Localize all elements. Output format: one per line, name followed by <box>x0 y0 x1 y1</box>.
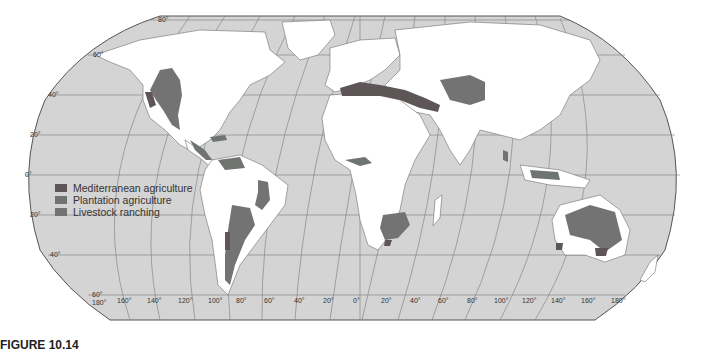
svg-text:60°: 60° <box>93 51 104 58</box>
svg-text:0°: 0° <box>25 171 32 178</box>
svg-text:20°: 20° <box>30 211 41 218</box>
svg-text:40°: 40° <box>48 91 59 98</box>
svg-text:20°: 20° <box>30 131 41 138</box>
svg-text:80°: 80° <box>467 297 478 304</box>
svg-text:120°: 120° <box>522 297 537 304</box>
legend-item-plantation: Plantation agriculture <box>55 194 193 206</box>
legend-swatch <box>55 208 67 216</box>
svg-text:160°: 160° <box>117 297 132 304</box>
svg-text:160°: 160° <box>581 297 596 304</box>
svg-text:140°: 140° <box>147 297 162 304</box>
svg-text:20°: 20° <box>381 297 392 304</box>
svg-text:20°: 20° <box>323 297 334 304</box>
figure-caption: FIGURE 10.14 <box>0 338 79 353</box>
svg-text:180°: 180° <box>611 297 626 304</box>
figure-number: FIGURE 10.14 <box>0 338 79 352</box>
legend-label: Mediterranean agriculture <box>73 182 193 194</box>
svg-text:180°: 180° <box>92 299 107 306</box>
legend-label: Livestock ranching <box>73 206 160 218</box>
svg-text:60°: 60° <box>92 291 103 298</box>
map-legend: Mediterranean agriculture Plantation agr… <box>55 182 193 218</box>
svg-text:60°: 60° <box>264 297 275 304</box>
svg-text:0°: 0° <box>353 297 360 304</box>
svg-text:40°: 40° <box>50 251 61 258</box>
legend-swatch <box>55 196 67 204</box>
svg-text:40°: 40° <box>294 297 305 304</box>
svg-text:100°: 100° <box>494 297 509 304</box>
svg-text:40°: 40° <box>410 297 421 304</box>
legend-label: Plantation agriculture <box>73 194 172 206</box>
legend-item-mediterranean: Mediterranean agriculture <box>55 182 193 194</box>
svg-text:140°: 140° <box>551 297 566 304</box>
legend-item-livestock: Livestock ranching <box>55 206 193 218</box>
region-plantation-india <box>503 150 508 162</box>
region-mediterranean-chile <box>225 232 230 250</box>
region-mediterranean-s-australia <box>595 248 608 256</box>
svg-text:60°: 60° <box>438 297 449 304</box>
svg-text:120°: 120° <box>178 297 193 304</box>
svg-text:80°: 80° <box>236 297 247 304</box>
svg-text:80°: 80° <box>158 16 169 23</box>
legend-swatch <box>55 184 67 192</box>
svg-text:100°: 100° <box>208 297 223 304</box>
region-mediterranean-sw-australia <box>556 243 563 250</box>
